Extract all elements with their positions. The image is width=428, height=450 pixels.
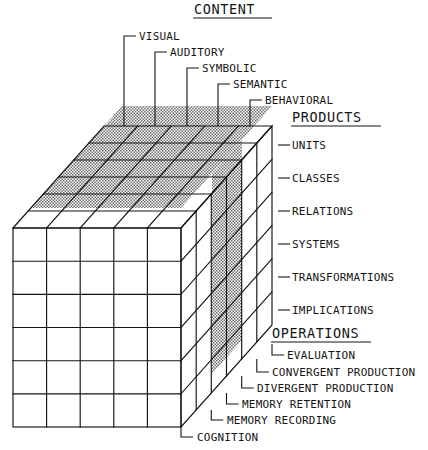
content-label-symbolic: SYMBOLIC — [202, 62, 257, 75]
cube-diagram: CONTENT VISUAL AUDITORY SYMBOLIC SEMANTI… — [0, 0, 428, 450]
products-label-units: UNITS — [292, 139, 326, 152]
products-label-classes: CLASSES — [292, 172, 340, 185]
right-face-operation-lines — [196, 143, 257, 410]
content-label-auditory: AUDITORY — [170, 46, 225, 59]
front-face-horizontal-lines — [13, 261, 181, 394]
heading-operations: OPERATIONS — [272, 325, 359, 341]
content-label-behavioral: BEHAVIORAL — [265, 94, 333, 107]
operations-label-cognition: COGNITION — [197, 431, 258, 444]
operations-label-divergent-production: DIVERGENT PRODUCTION — [257, 382, 393, 395]
operations-leader-evaluation — [272, 344, 284, 355]
products-label-relations: RELATIONS — [292, 205, 353, 218]
heading-products: PRODUCTS — [292, 109, 362, 125]
operations-leader-cognition — [181, 427, 193, 437]
operations-label-convergent-production: CONVERGENT PRODUCTION — [272, 366, 415, 379]
products-label-implications: IMPLICATIONS — [292, 304, 374, 317]
products-axis-group: PRODUCTS UNITS CLASSES RELATIONS SYSTEMS… — [278, 109, 394, 317]
structure-of-intellect-figure: CONTENT VISUAL AUDITORY SYMBOLIC SEMANTI… — [0, 0, 428, 450]
operations-label-evaluation: EVALUATION — [287, 349, 355, 362]
operations-leader-divergent — [242, 376, 254, 388]
heading-content: CONTENT — [194, 1, 255, 17]
shaded-slab-group — [31, 106, 272, 374]
operations-leader-memory-retention — [227, 393, 239, 404]
content-label-visual: VISUAL — [139, 30, 180, 43]
operations-label-memory-recording: MEMORY RECORDING — [227, 414, 336, 427]
operations-leader-memory-recording — [211, 410, 223, 420]
products-label-transformations: TRANSFORMATIONS — [292, 271, 394, 284]
products-label-systems: SYSTEMS — [292, 238, 340, 251]
operations-leader-convergent — [257, 359, 269, 372]
content-label-semantic: SEMANTIC — [233, 78, 288, 91]
operations-label-memory-retention: MEMORY RETENTION — [242, 398, 351, 411]
